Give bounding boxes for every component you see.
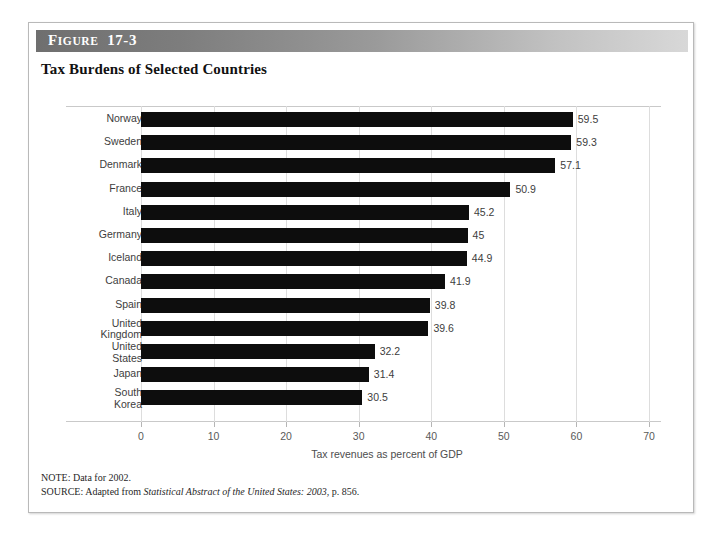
bar-value-label: 32.2 <box>380 345 400 357</box>
bar-value-label: 39.6 <box>433 322 453 334</box>
bar-row: Norway59.5 <box>29 109 693 132</box>
tickmark-20 <box>286 422 287 427</box>
x-axis-line <box>66 421 661 422</box>
category-label: Germany <box>22 225 142 241</box>
category-label: France <box>22 179 142 195</box>
source-label: SOURCE: <box>41 486 83 497</box>
bar-chart: 010203040506070 Norway59.5Sweden59.3Denm… <box>29 93 693 468</box>
x-tick-label-70: 70 <box>643 430 655 442</box>
figure-label-f: F <box>48 32 58 48</box>
category-label: Canada <box>22 271 142 287</box>
bar-row: France50.9 <box>29 179 693 202</box>
bar <box>141 321 428 336</box>
bar-row: Japan31.4 <box>29 364 693 387</box>
category-label: Spain <box>22 295 142 311</box>
bar-value-label: 45.2 <box>474 206 494 218</box>
bar <box>141 344 375 359</box>
tickmark-10 <box>214 422 215 427</box>
tickmark-0 <box>141 422 142 427</box>
category-label: United Kingdom <box>22 318 142 341</box>
source-prefix: Adapted from <box>85 486 141 497</box>
bar-value-label: 44.9 <box>472 252 492 264</box>
tickmark-60 <box>576 422 577 427</box>
category-label: United States <box>22 341 142 364</box>
note-text: Data for 2002. <box>73 472 131 483</box>
x-tick-label-60: 60 <box>571 430 583 442</box>
bar <box>141 367 369 382</box>
x-tick-label-10: 10 <box>208 430 220 442</box>
source-title-italic: Statistical Abstract of the United State… <box>144 486 327 497</box>
bar <box>141 251 467 266</box>
figure-label-number: 17-3 <box>107 32 137 48</box>
bar <box>141 298 430 313</box>
bar-value-label: 59.5 <box>578 113 598 125</box>
source-suffix: , p. 856. <box>327 486 360 497</box>
category-label: Denmark <box>22 155 142 171</box>
bar-row: United Kingdom39.6 <box>29 318 693 341</box>
x-tick-label-20: 20 <box>280 430 292 442</box>
category-label: Japan <box>22 364 142 380</box>
figure-header-bar: FIGURE 17-3 <box>36 30 688 52</box>
bar-row: Sweden59.3 <box>29 132 693 155</box>
bar-value-label: 59.3 <box>576 136 596 148</box>
bar-value-label: 39.8 <box>435 299 455 311</box>
bar-row: Canada41.9 <box>29 271 693 294</box>
category-label: Sweden <box>22 132 142 148</box>
tickmark-40 <box>431 422 432 427</box>
figure-notes: NOTE: Data for 2002. SOURCE: Adapted fro… <box>41 471 359 499</box>
bar-row: Denmark57.1 <box>29 155 693 178</box>
tickmark-70 <box>649 422 650 427</box>
plot-top-border <box>66 106 661 107</box>
note-line: NOTE: Data for 2002. <box>41 471 359 485</box>
bar <box>141 158 555 173</box>
x-tick-label-50: 50 <box>498 430 510 442</box>
figure-box: FIGURE 17-3 Tax Burdens of Selected Coun… <box>28 22 694 513</box>
bar <box>141 228 468 243</box>
bar <box>141 182 510 197</box>
bar <box>141 135 571 150</box>
bar-row: Spain39.8 <box>29 295 693 318</box>
bar-row: Italy45.2 <box>29 202 693 225</box>
x-axis-title: Tax revenues as percent of GDP <box>29 448 693 460</box>
bar <box>141 390 362 405</box>
bar <box>141 205 469 220</box>
bar-value-label: 41.9 <box>450 275 470 287</box>
tickmark-30 <box>359 422 360 427</box>
bar-value-label: 30.5 <box>367 391 387 403</box>
bar-row: South Korea30.5 <box>29 387 693 410</box>
x-tick-label-30: 30 <box>353 430 365 442</box>
bar-row: United States32.2 <box>29 341 693 364</box>
bar-value-label: 31.4 <box>374 368 394 380</box>
category-label: Norway <box>22 109 142 125</box>
bar-value-label: 45 <box>473 229 485 241</box>
figure-label-igure: IGURE <box>58 35 99 47</box>
bar <box>141 274 445 289</box>
source-line: SOURCE: Adapted from Statistical Abstrac… <box>41 485 359 499</box>
bar <box>141 112 573 127</box>
page-title: Tax Burdens of Selected Countries <box>41 61 267 78</box>
bar-value-label: 50.9 <box>515 183 535 195</box>
category-label: Iceland <box>22 248 142 264</box>
bar-row: Germany45 <box>29 225 693 248</box>
bar-value-label: 57.1 <box>560 159 580 171</box>
note-label: NOTE: <box>41 472 70 483</box>
category-label: Italy <box>22 202 142 218</box>
x-tick-label-0: 0 <box>138 430 144 442</box>
bar-row: Iceland44.9 <box>29 248 693 271</box>
tickmark-50 <box>504 422 505 427</box>
x-tick-label-40: 40 <box>425 430 437 442</box>
category-label: South Korea <box>22 387 142 410</box>
figure-label: FIGURE 17-3 <box>48 32 137 49</box>
